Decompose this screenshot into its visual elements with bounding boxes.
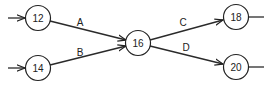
node-label-14: 14 <box>32 63 44 74</box>
node-label-12: 12 <box>32 13 44 24</box>
node-12: 12 <box>26 6 51 31</box>
edge-label-c: C <box>179 17 186 28</box>
node-16: 16 <box>126 31 151 56</box>
edge-b <box>50 46 126 65</box>
diagram-canvas: A B C D 12 14 16 18 20 <box>0 0 269 85</box>
node-label-16: 16 <box>132 38 144 49</box>
edge-label-a: A <box>77 17 84 28</box>
node-label-20: 20 <box>230 62 242 73</box>
network-diagram: A B C D 12 14 16 18 20 <box>0 0 269 85</box>
edge-a <box>50 21 126 40</box>
edge-label-b: B <box>77 47 84 58</box>
node-20: 20 <box>224 55 249 80</box>
node-18: 18 <box>224 5 249 30</box>
node-label-18: 18 <box>230 12 242 23</box>
edge-label-d: D <box>182 42 189 53</box>
node-14: 14 <box>26 56 51 81</box>
